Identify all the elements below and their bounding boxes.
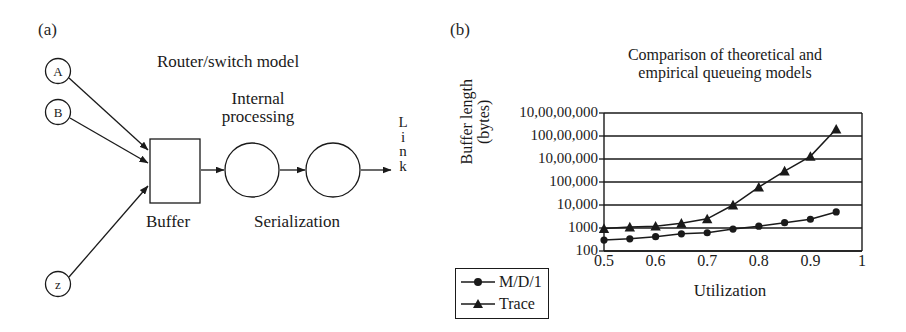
chart-datapoint-1-4 — [702, 214, 712, 224]
chart-datapoint-0-9 — [833, 208, 840, 215]
chart-datapoint-0-6 — [755, 223, 762, 230]
buffer-box — [150, 139, 200, 203]
chart-datapoint-0-3 — [678, 230, 685, 237]
chart-series-line-0 — [604, 212, 836, 240]
internal-processing-line-2: processing — [222, 107, 295, 126]
buffer-label: Buffer — [146, 212, 190, 232]
internal-processing-label: Internal processing — [208, 90, 308, 126]
chart-datapoint-1-9 — [831, 124, 841, 134]
legend-item-0[interactable]: M/D/1 — [459, 271, 542, 293]
legend-marker-circle — [459, 273, 497, 291]
chart-datapoint-0-4 — [704, 229, 711, 236]
chart-datapoint-0-7 — [781, 219, 788, 226]
panel-b-queueing-chart: (b) Comparison of theoretical and empiri… — [440, 0, 906, 332]
arrow-a-to-buffer — [69, 78, 148, 150]
arrow-b-to-buffer — [70, 118, 148, 163]
internal-processing-line-1: Internal — [232, 89, 285, 108]
chart-datapoint-0-2 — [652, 233, 659, 240]
link-letter-2: i — [401, 129, 405, 145]
chart-series-line-1 — [604, 129, 836, 228]
chart-datapoint-0-8 — [807, 216, 814, 223]
chart-xtick-label-0: 0.5 — [594, 252, 614, 270]
chart-legend: M/D/1 Trace — [455, 268, 549, 319]
link-letter-3: n — [399, 143, 407, 159]
link-label: L i n k — [396, 115, 410, 174]
chart-xtick-label-3: 0.8 — [749, 252, 769, 270]
diagram-title: Router/switch model — [157, 52, 299, 72]
chart-datapoint-1-7 — [779, 166, 789, 176]
legend-label-0: M/D/1 — [497, 273, 542, 291]
link-letter-4: k — [399, 158, 407, 174]
chart-x-axis-title: Utilization — [590, 281, 870, 301]
serialization-circle — [306, 143, 360, 197]
internal-processing-circle — [225, 143, 279, 197]
chart-xtick-label-2: 0.7 — [697, 252, 717, 270]
source-node-b-label: B — [47, 105, 69, 121]
legend-item-1[interactable]: Trace — [459, 293, 542, 315]
figure-root: (a) — [0, 0, 906, 332]
legend-marker-triangle — [459, 295, 497, 313]
chart-datapoint-1-6 — [754, 182, 764, 192]
source-node-z-label: z — [47, 277, 69, 293]
link-letter-1: L — [398, 114, 407, 130]
chart-datapoint-0-0 — [600, 236, 607, 243]
source-node-a-label: A — [47, 64, 69, 80]
panel-a-router-switch-model: (a) — [0, 0, 440, 332]
chart-xtick-label-5: 1 — [858, 252, 866, 270]
serialization-label: Serialization — [254, 212, 340, 232]
legend-label-1: Trace — [497, 295, 535, 313]
chart-datapoint-0-1 — [626, 235, 633, 242]
chart-xtick-label-4: 0.9 — [800, 252, 820, 270]
chart-datapoint-0-5 — [729, 225, 736, 232]
chart-xtick-label-1: 0.6 — [646, 252, 666, 270]
arrow-z-to-buffer — [69, 186, 148, 277]
